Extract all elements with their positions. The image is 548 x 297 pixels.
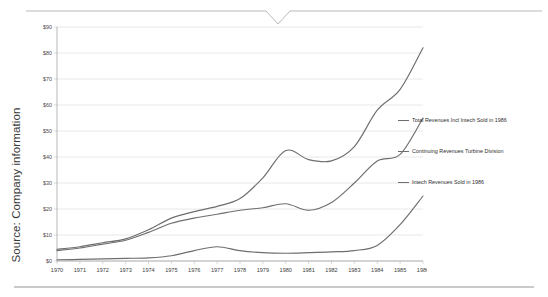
legend-line-icon — [398, 151, 409, 152]
x-axis-tick-label: 1983 — [348, 267, 360, 273]
legend-item-label: Intech Revenues Sold in 1986 — [412, 180, 484, 185]
x-axis-tick-label: 1972 — [97, 267, 109, 273]
y-axis-tick-label: $30 — [43, 180, 52, 186]
y-axis-tick-label: $0 — [46, 258, 52, 264]
x-axis-tick-label: 1970 — [51, 267, 63, 273]
chart-plot-area: $0$10$20$30$40$50$60$70$80$9019701971197… — [27, 18, 427, 280]
x-axis-tick-label: 1979 — [257, 267, 269, 273]
x-axis-tick-label: 1973 — [119, 267, 131, 273]
x-axis-tick-label: 1975 — [165, 267, 177, 273]
series-line-2 — [57, 196, 423, 260]
y-axis-tick-label: $70 — [43, 76, 52, 82]
x-axis-tick-label: 1974 — [142, 267, 154, 273]
x-axis-tick-label: 1985 — [394, 267, 406, 273]
x-axis-tick-label: 1981 — [302, 267, 314, 273]
y-axis-tick-label: $10 — [43, 232, 52, 238]
line-chart: $0$10$20$30$40$50$60$70$80$9019701971197… — [27, 18, 427, 280]
y-axis-tick-label: $40 — [43, 154, 52, 160]
legend-line-icon — [398, 182, 409, 183]
legend-item-intech-revenues[interactable]: Intech Revenues Sold in 1986 — [398, 180, 484, 185]
legend-item-label: Total Revenues Incl Intech Sold in 1986 — [412, 118, 507, 123]
y-axis-tick-label: $80 — [43, 50, 52, 56]
legend-line-icon — [398, 120, 409, 121]
y-axis-tick-label: $90 — [43, 24, 52, 30]
y-axis-tick-label: $60 — [43, 102, 52, 108]
x-axis-tick-label: 1984 — [371, 267, 383, 273]
x-axis-tick-label: 1980 — [280, 267, 292, 273]
x-axis-tick-label: 1986 — [417, 267, 427, 273]
bottom-divider — [14, 286, 534, 288]
legend-item-total-revenues[interactable]: Total Revenues Incl Intech Sold in 1986 — [398, 118, 507, 123]
legend-item-label: Continuing Revenues Turbine Division — [412, 149, 503, 154]
x-axis-tick-label: 1977 — [211, 267, 223, 273]
x-axis-tick-label: 1971 — [74, 267, 86, 273]
series-line-0 — [57, 48, 423, 250]
legend-item-continuing-revenues[interactable]: Continuing Revenues Turbine Division — [398, 149, 503, 154]
x-axis-tick-label: 1976 — [188, 267, 200, 273]
series-line-1 — [57, 118, 423, 251]
x-axis-tick-label: 1978 — [234, 267, 246, 273]
chart-page: Source: Company information $0$10$20$30$… — [0, 0, 548, 297]
source-note: Source: Company information — [10, 85, 22, 285]
y-axis-tick-label: $50 — [43, 128, 52, 134]
x-axis-tick-label: 1982 — [325, 267, 337, 273]
y-axis-tick-label: $20 — [43, 206, 52, 212]
